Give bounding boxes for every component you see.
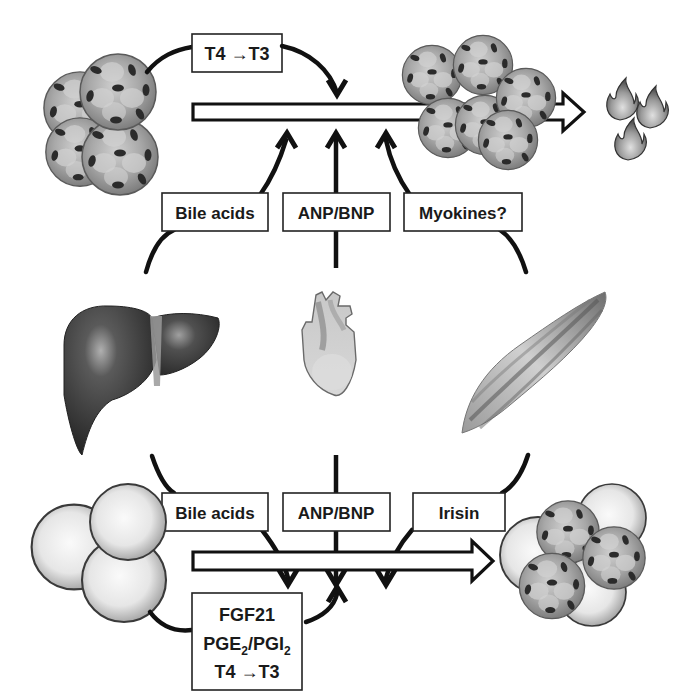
myokines-box-top: Myokines? xyxy=(404,193,522,231)
muscle-icon xyxy=(462,292,606,433)
brown-adipocyte-cluster-left xyxy=(44,54,158,195)
myokines-label-top: Myokines? xyxy=(419,204,507,223)
liver-icon xyxy=(64,306,219,455)
anp-bnp-label-top: ANP/BNP xyxy=(298,204,375,223)
white-adipocyte-cluster xyxy=(32,484,166,622)
anp-bnp-box-top: ANP/BNP xyxy=(283,193,390,231)
irisin-box-bottom: Irisin xyxy=(413,493,505,531)
brown-adipocyte-cluster-center xyxy=(402,35,555,169)
myokines-arrow-curve xyxy=(386,140,410,195)
flame-icon xyxy=(607,78,638,120)
heart-icon xyxy=(302,292,356,395)
anp-bnp-box-bottom: ANP/BNP xyxy=(283,493,390,531)
liver-to-bile-acids-bottom-curve xyxy=(152,456,174,493)
t4-t3-box-top: T4 →T3 xyxy=(192,34,282,72)
muscle-to-myokines-curve xyxy=(500,230,526,272)
autocrine-curve-bottom-in xyxy=(150,612,192,630)
bile-acids-top-arrow-curve xyxy=(260,140,286,195)
bile-acids-label-top: Bile acids xyxy=(175,204,254,223)
autocrine-factors-box: FGF21 PGE2/PGI2 T4 →T3 xyxy=(192,593,302,690)
bile-acids-box-bottom: Bile acids xyxy=(162,493,268,531)
t4-t3-label-top: T4 →T3 xyxy=(204,44,269,64)
autocrine-curve-top-in xyxy=(147,47,192,72)
t4-t3-label-bottom: T4 →T3 xyxy=(214,662,279,682)
liver-to-bile-acids-top-curve xyxy=(146,230,174,272)
muscle-to-irisin-curve xyxy=(502,455,528,493)
fgf21-label: FGF21 xyxy=(219,605,275,625)
flame-icon xyxy=(637,86,668,128)
anp-bnp-label-bottom: ANP/BNP xyxy=(298,504,375,523)
flame-icon-group xyxy=(607,78,668,160)
bile-acids-box-top: Bile acids xyxy=(162,193,268,231)
adipose-signaling-diagram: T4 →T3 Bile acids xyxy=(0,0,678,698)
irisin-label-bottom: Irisin xyxy=(439,504,480,523)
beige-adipocyte-cluster xyxy=(500,484,646,626)
bile-acids-label-bottom: Bile acids xyxy=(175,504,254,523)
